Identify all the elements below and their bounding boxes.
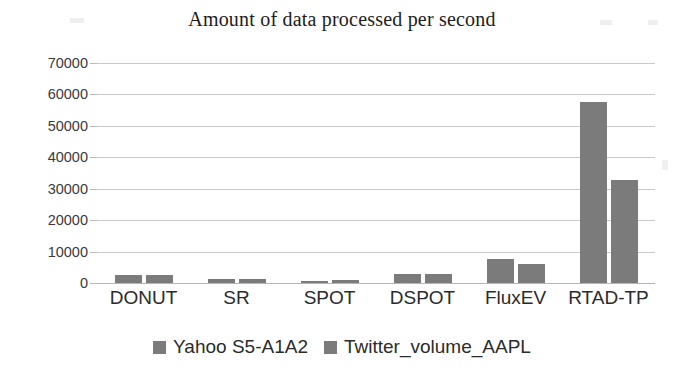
scan-artifact: [662, 160, 668, 170]
bar-group: [487, 63, 545, 283]
bar-group: [301, 63, 359, 283]
bar: [580, 102, 607, 283]
legend-label: Yahoo S5-A1A2: [173, 336, 308, 358]
square-marker-icon: [324, 341, 337, 354]
x-axis-tick-labels: DONUTSRSPOTDSPOTFluxEVRTAD-TP: [97, 288, 655, 318]
gridline: [97, 94, 655, 95]
bar: [146, 275, 173, 283]
bar: [425, 274, 452, 283]
bar: [301, 281, 328, 284]
bar: [115, 275, 142, 283]
x-axis-tick-label: SR: [223, 288, 249, 309]
x-axis-tick-label: DSPOT: [390, 288, 455, 309]
gridline: [97, 189, 655, 190]
bar: [208, 279, 235, 283]
bar: [487, 259, 514, 283]
gridline: [97, 126, 655, 127]
bar-chart: Amount of data processed per second 0100…: [0, 0, 684, 391]
bar-group: [208, 63, 266, 283]
bar: [611, 180, 638, 283]
y-axis-tick-mark: [90, 283, 97, 284]
chart-legend: Yahoo S5-A1A2Twitter_volume_AAPL: [0, 336, 684, 358]
x-axis-tick-label: SPOT: [304, 288, 356, 309]
legend-entry[interactable]: Yahoo S5-A1A2: [153, 336, 308, 358]
y-axis-tick-mark: [90, 252, 97, 253]
y-axis-tick-mark: [90, 157, 97, 158]
x-axis-tick-label: RTAD-TP: [568, 288, 649, 309]
gridline: [97, 283, 655, 284]
bar: [518, 264, 545, 283]
legend-label: Twitter_volume_AAPL: [344, 336, 531, 358]
scan-artifact: [648, 20, 658, 25]
y-axis-tick-mark: [90, 220, 97, 221]
y-axis-tick-marks: [0, 63, 97, 283]
gridline: [97, 157, 655, 158]
legend-entry[interactable]: Twitter_volume_AAPL: [324, 336, 531, 358]
gridline: [97, 220, 655, 221]
gridline: [97, 252, 655, 253]
y-axis-tick-mark: [90, 94, 97, 95]
bar: [239, 279, 266, 283]
bar: [332, 280, 359, 283]
y-axis-tick-mark: [90, 63, 97, 64]
x-axis-tick-label: DONUT: [110, 288, 178, 309]
y-axis-tick-mark: [90, 126, 97, 127]
plot-area: [97, 63, 655, 283]
y-axis-tick-mark: [90, 189, 97, 190]
bar-group: [394, 63, 452, 283]
scan-artifact: [600, 20, 612, 25]
square-marker-icon: [153, 341, 166, 354]
chart-title: Amount of data processed per second: [0, 8, 684, 31]
bar-group: [115, 63, 173, 283]
bar: [394, 274, 421, 283]
gridline: [97, 63, 655, 64]
scan-artifact: [70, 18, 84, 23]
x-axis-tick-label: FluxEV: [485, 288, 546, 309]
bar-group: [580, 63, 638, 283]
